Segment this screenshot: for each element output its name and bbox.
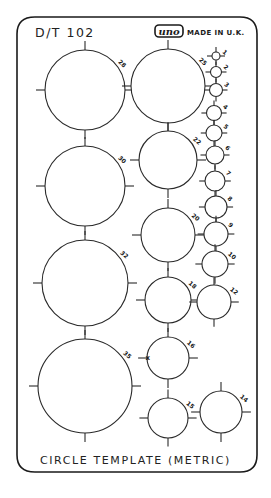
size-label: 16: [186, 339, 197, 350]
circle-outline: [45, 50, 125, 130]
circle-outline: [206, 146, 224, 164]
footer-title: CIRCLE TEMPLATE (METRIC): [40, 454, 231, 467]
circle-hole-9: 9: [198, 216, 235, 253]
circle-hole-32: 32: [33, 231, 137, 335]
circle-hole-1: 1: [207, 47, 229, 65]
made-in-label: MADE IN U.K.: [187, 29, 245, 37]
circle-hole-4: 4: [201, 100, 229, 125]
model-number: D/T 102: [35, 25, 95, 40]
circle-hole-28: 28: [36, 41, 134, 139]
circle-hole-14: 14: [191, 382, 251, 442]
size-label: 25: [198, 56, 209, 67]
logo-text: uno: [159, 26, 181, 37]
circle-hole-3: 3: [205, 79, 231, 102]
circle-outline: [207, 106, 222, 121]
circle-hole-30: 30: [36, 137, 134, 235]
size-label: 3: [223, 80, 231, 88]
size-label: 20: [190, 212, 201, 223]
circle-hole-20: 20: [132, 199, 204, 271]
size-label: 7: [225, 169, 233, 177]
circle-outline: [148, 398, 188, 438]
size-label: 14: [239, 393, 250, 404]
circle-hole-18: 18: [136, 268, 200, 332]
size-label: 32: [119, 249, 130, 260]
circle-outline: [211, 67, 222, 78]
circle-outline: [197, 285, 231, 319]
circle-outline: [141, 208, 195, 262]
size-label: 1: [221, 48, 229, 56]
brand-logo: uno: [155, 25, 183, 37]
circle-hole-15: 15: [139, 389, 196, 446]
circle-outline: [200, 391, 242, 433]
circle-outline: [205, 196, 227, 218]
circle-hole-2: 2: [206, 62, 231, 83]
size-label: 2: [222, 63, 230, 71]
size-label: 35: [122, 349, 133, 360]
size-label: 30: [117, 154, 128, 165]
circle-outline: [45, 146, 125, 226]
size-label: 15: [185, 399, 196, 410]
size-label: 5: [222, 122, 230, 130]
size-label: 18: [187, 279, 198, 290]
size-label: 9: [227, 221, 235, 229]
circle-hole-35: 35: [29, 330, 141, 442]
size-label: 28: [117, 58, 128, 69]
circle-outline: [131, 49, 205, 123]
circle-outline: [147, 337, 189, 379]
circle-hole-10: 10: [195, 244, 238, 283]
size-label: 4: [222, 103, 230, 111]
circle-hole-8: 8: [199, 190, 234, 224]
circle-hole-22: 22: [130, 122, 206, 198]
size-label: 22: [192, 135, 203, 146]
circles-layer: 28303235252220181615123456789101214: [29, 40, 251, 447]
circle-template-plate: D/T 102 uno MADE IN U.K. 283032352522201…: [0, 0, 271, 498]
size-label: 10: [227, 250, 238, 261]
circle-outline: [139, 131, 197, 189]
circle-outline: [212, 52, 220, 60]
circle-outline: [202, 251, 228, 277]
size-label: 6: [224, 144, 232, 152]
circle-outline: [38, 339, 132, 433]
circle-outline: [205, 171, 225, 191]
size-label: 12: [229, 285, 240, 296]
circle-hole-25: 25: [122, 40, 214, 132]
circle-outline: [42, 240, 128, 326]
circle-outline: [145, 277, 191, 323]
circle-outline: [206, 125, 222, 141]
circle-outline: [210, 84, 223, 97]
size-label: 8: [226, 194, 234, 202]
center-mark-x: x: [146, 354, 151, 362]
circle-hole-6: 6: [200, 140, 231, 169]
circle-outline: [204, 222, 228, 246]
